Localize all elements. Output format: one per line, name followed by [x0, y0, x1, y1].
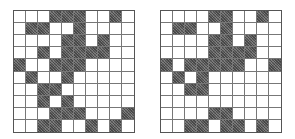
- filled-cell: [38, 120, 50, 132]
- filled-cell: [26, 72, 38, 84]
- filled-cell: [74, 23, 86, 35]
- empty-cell: [86, 96, 98, 108]
- filled-cell: [185, 84, 197, 96]
- empty-cell: [185, 35, 197, 47]
- filled-cell: [185, 23, 197, 35]
- filled-cell: [233, 47, 245, 59]
- filled-cell: [38, 47, 50, 59]
- empty-cell: [197, 11, 209, 23]
- empty-cell: [221, 96, 233, 108]
- filled-cell: [221, 35, 233, 47]
- empty-cell: [173, 47, 185, 59]
- filled-cell: [209, 47, 221, 59]
- empty-cell: [98, 23, 110, 35]
- empty-cell: [257, 59, 269, 71]
- empty-cell: [122, 35, 134, 47]
- empty-cell: [185, 72, 197, 84]
- empty-cell: [62, 120, 74, 132]
- filled-cell: [185, 59, 197, 71]
- filled-cell: [209, 11, 221, 23]
- empty-cell: [50, 96, 62, 108]
- empty-cell: [173, 59, 185, 71]
- empty-cell: [110, 47, 122, 59]
- empty-cell: [197, 96, 209, 108]
- filled-cell: [86, 47, 98, 59]
- empty-cell: [122, 120, 134, 132]
- empty-cell: [14, 96, 26, 108]
- empty-cell: [245, 120, 257, 132]
- empty-cell: [161, 72, 173, 84]
- empty-cell: [86, 59, 98, 71]
- filled-cell: [197, 72, 209, 84]
- empty-cell: [38, 35, 50, 47]
- empty-cell: [26, 120, 38, 132]
- filled-cell: [50, 108, 62, 120]
- empty-cell: [257, 108, 269, 120]
- empty-cell: [161, 23, 173, 35]
- filled-cell: [74, 59, 86, 71]
- empty-cell: [122, 47, 134, 59]
- filled-cell: [233, 59, 245, 71]
- empty-cell: [26, 59, 38, 71]
- empty-cell: [98, 120, 110, 132]
- filled-cell: [62, 59, 74, 71]
- empty-cell: [122, 72, 134, 84]
- filled-cell: [50, 120, 62, 132]
- empty-cell: [26, 108, 38, 120]
- empty-cell: [209, 72, 221, 84]
- empty-cell: [245, 96, 257, 108]
- empty-cell: [233, 35, 245, 47]
- empty-cell: [269, 72, 281, 84]
- filled-cell: [209, 35, 221, 47]
- empty-cell: [197, 35, 209, 47]
- empty-cell: [233, 11, 245, 23]
- empty-cell: [269, 23, 281, 35]
- empty-cell: [233, 72, 245, 84]
- empty-cell: [233, 108, 245, 120]
- empty-cell: [185, 47, 197, 59]
- empty-cell: [209, 84, 221, 96]
- empty-cell: [233, 96, 245, 108]
- empty-cell: [86, 35, 98, 47]
- left-grid: [13, 10, 135, 133]
- empty-cell: [269, 84, 281, 96]
- empty-cell: [110, 108, 122, 120]
- filled-cell: [221, 47, 233, 59]
- empty-cell: [197, 23, 209, 35]
- empty-cell: [98, 72, 110, 84]
- empty-cell: [161, 84, 173, 96]
- filled-cell: [233, 120, 245, 132]
- empty-cell: [26, 35, 38, 47]
- filled-cell: [110, 11, 122, 23]
- empty-cell: [26, 47, 38, 59]
- filled-cell: [50, 84, 62, 96]
- empty-cell: [245, 84, 257, 96]
- filled-cell: [86, 120, 98, 132]
- empty-cell: [245, 11, 257, 23]
- empty-cell: [110, 35, 122, 47]
- filled-cell: [257, 120, 269, 132]
- filled-cell: [221, 108, 233, 120]
- empty-cell: [269, 96, 281, 108]
- empty-cell: [221, 72, 233, 84]
- empty-cell: [74, 96, 86, 108]
- empty-cell: [257, 35, 269, 47]
- empty-cell: [269, 35, 281, 47]
- empty-cell: [14, 108, 26, 120]
- filled-cell: [209, 108, 221, 120]
- empty-cell: [269, 47, 281, 59]
- filled-cell: [98, 47, 110, 59]
- empty-cell: [14, 84, 26, 96]
- empty-cell: [257, 72, 269, 84]
- filled-cell: [62, 96, 74, 108]
- filled-cell: [62, 108, 74, 120]
- empty-cell: [110, 96, 122, 108]
- empty-cell: [38, 72, 50, 84]
- filled-cell: [257, 11, 269, 23]
- empty-cell: [257, 47, 269, 59]
- filled-cell: [74, 108, 86, 120]
- filled-cell: [38, 84, 50, 96]
- empty-cell: [86, 72, 98, 84]
- empty-cell: [122, 84, 134, 96]
- empty-cell: [14, 47, 26, 59]
